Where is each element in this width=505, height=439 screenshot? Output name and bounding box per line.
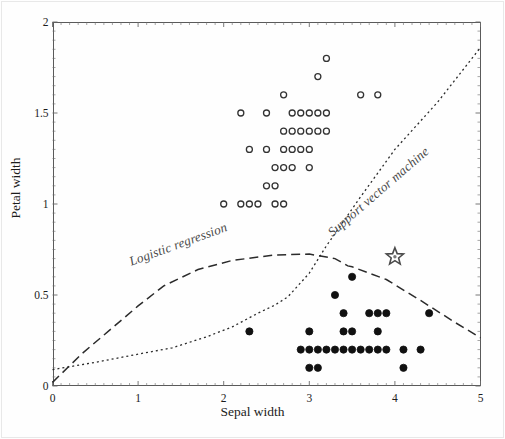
- point-filled-circle: [357, 346, 364, 353]
- y-tick-1: 0.5: [27, 289, 49, 301]
- point-open-circle: [315, 74, 321, 80]
- point-open-circle: [264, 110, 270, 116]
- point-filled-circle: [331, 346, 338, 353]
- point-filled-circle: [349, 346, 356, 353]
- plot-canvas: [0, 0, 505, 439]
- point-open-circle: [298, 128, 304, 134]
- point-open-circle: [298, 146, 304, 152]
- x-axis-title: Sepal width: [0, 404, 505, 420]
- point-filled-circle: [374, 310, 381, 317]
- point-open-circle: [264, 146, 270, 152]
- point-open-circle: [358, 92, 364, 98]
- point-filled-circle: [349, 328, 356, 335]
- point-open-circle: [323, 128, 329, 134]
- point-open-circle: [272, 183, 278, 189]
- point-filled-circle: [306, 328, 313, 335]
- point-filled-circle: [340, 310, 347, 317]
- point-filled-circle: [374, 328, 381, 335]
- point-filled-circle: [246, 328, 253, 335]
- point-filled-circle: [374, 346, 381, 353]
- point-filled-circle: [383, 346, 390, 353]
- point-filled-circle: [383, 310, 390, 317]
- point-open-circle: [281, 165, 287, 171]
- point-filled-circle: [366, 310, 373, 317]
- y-axis-title: Petal width: [8, 138, 24, 238]
- point-open-circle: [281, 201, 287, 207]
- point-open-circle: [272, 201, 278, 207]
- x-tick-4: 4: [392, 392, 398, 404]
- point-open-circle: [289, 128, 295, 134]
- point-filled-circle: [400, 364, 407, 371]
- point-open-circle: [272, 165, 278, 171]
- point-open-circle: [289, 146, 295, 152]
- x-tick-1: 1: [135, 392, 141, 404]
- point-open-circle: [323, 110, 329, 116]
- point-filled-circle: [314, 346, 321, 353]
- point-filled-circle: [323, 346, 330, 353]
- y-tick-0: 0: [27, 380, 49, 392]
- decision-boundaries: [53, 47, 481, 382]
- x-tick-5: 5: [478, 392, 484, 404]
- point-filled-circle: [400, 346, 407, 353]
- point-filled-circle: [340, 328, 347, 335]
- axis-ticks: [53, 22, 481, 386]
- point-open-circle: [306, 128, 312, 134]
- point-filled-circle: [349, 273, 356, 280]
- figure-scatter-plot: 012345 00.511.52 Sepal width Petal width…: [0, 0, 505, 439]
- star-center-dot: [393, 255, 396, 258]
- x-tick-0: 0: [50, 392, 56, 404]
- point-open-circle: [315, 128, 321, 134]
- x-tick-3: 3: [306, 392, 312, 404]
- point-filled-circle: [366, 346, 373, 353]
- point-open-circle: [289, 110, 295, 116]
- point-open-circle: [306, 146, 312, 152]
- point-open-circle: [255, 201, 261, 207]
- point-open-circle: [221, 201, 227, 207]
- point-open-circle: [323, 55, 329, 61]
- point-open-circle: [281, 128, 287, 134]
- point-open-circle: [238, 110, 244, 116]
- point-filled-circle: [417, 346, 424, 353]
- data-points: [221, 55, 433, 371]
- y-tick-4: 2: [27, 16, 49, 28]
- point-open-circle: [281, 146, 287, 152]
- point-open-circle: [375, 92, 381, 98]
- point-filled-circle: [306, 364, 313, 371]
- point-open-circle: [315, 110, 321, 116]
- point-open-circle: [306, 110, 312, 116]
- point-filled-circle: [314, 364, 321, 371]
- point-open-circle: [264, 183, 270, 189]
- boundary-support-vector-machine: [53, 47, 481, 369]
- point-open-circle: [306, 165, 312, 171]
- point-open-circle: [246, 201, 252, 207]
- point-filled-circle: [331, 291, 338, 298]
- point-filled-circle: [306, 346, 313, 353]
- point-filled-circle: [426, 310, 433, 317]
- point-open-circle: [281, 92, 287, 98]
- point-filled-circle: [297, 346, 304, 353]
- x-tick-2: 2: [221, 392, 227, 404]
- point-open-circle: [289, 165, 295, 171]
- y-tick-3: 1.5: [27, 107, 49, 119]
- point-filled-circle: [340, 346, 347, 353]
- y-tick-2: 1: [27, 198, 49, 210]
- boundary-logistic-regression: [53, 254, 481, 382]
- point-open-circle: [238, 201, 244, 207]
- point-open-circle: [246, 146, 252, 152]
- point-open-circle: [298, 110, 304, 116]
